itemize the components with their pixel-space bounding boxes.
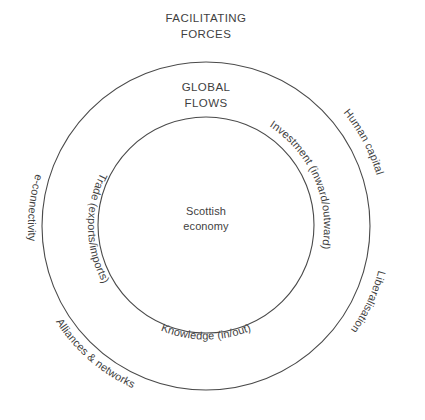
inner-label-investment-text: Investment (inward/outward)	[268, 118, 334, 251]
inner-label-knowledge: Knowledge (in/out)	[160, 321, 253, 341]
center-label-line2: economy	[183, 220, 229, 232]
outer-label-liberalisation: Liberalisation	[349, 270, 388, 336]
outer-ring-title-line1: FACILITATING	[165, 12, 246, 24]
outer-label-human-capital-text: Human capital	[342, 106, 387, 176]
outer-label-liberalisation-text: Liberalisation	[349, 270, 388, 336]
outer-label-alliances-networks-text: Alliances & networks	[54, 316, 137, 390]
inner-label-knowledge-text: Knowledge (in/out)	[160, 321, 253, 341]
inner-ring-title-line1: GLOBAL	[182, 81, 231, 93]
outer-label-human-capital: Human capital	[342, 106, 387, 176]
concentric-circles-diagram: FACILITATING FORCES GLOBAL FLOWS Scottis…	[0, 0, 425, 420]
inner-label-trade: Trade (exports/imports)	[86, 172, 112, 285]
inner-ring-title-line2: FLOWS	[184, 97, 227, 109]
inner-label-trade-text: Trade (exports/imports)	[86, 172, 112, 285]
center-label-line1: Scottish	[186, 205, 226, 217]
diagram-canvas: FACILITATING FORCES GLOBAL FLOWS Scottis…	[0, 0, 425, 420]
inner-label-investment: Investment (inward/outward)	[268, 118, 334, 251]
outer-ring-title-line2: FORCES	[181, 28, 232, 40]
outer-label-alliances-networks: Alliances & networks	[54, 316, 137, 390]
